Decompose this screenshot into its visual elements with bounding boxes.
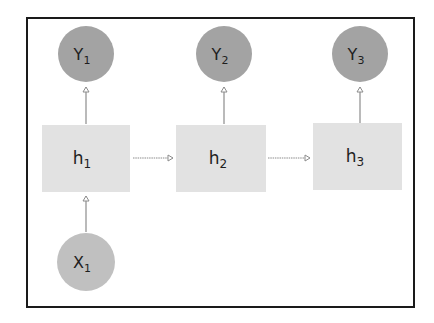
output-node-y3: Y3 <box>332 26 388 82</box>
output-node-y1: Y1 <box>58 26 114 82</box>
hidden-state-h1: h1 <box>42 125 130 192</box>
rnn-diagram: Y1 Y2 Y3 h1 h2 h3 X1 <box>0 0 434 323</box>
input-node-x1: X1 <box>57 233 115 291</box>
output-node-y2: Y2 <box>196 26 252 82</box>
hidden-state-h3: h3 <box>313 123 402 190</box>
hidden-state-h2: h2 <box>176 125 266 192</box>
